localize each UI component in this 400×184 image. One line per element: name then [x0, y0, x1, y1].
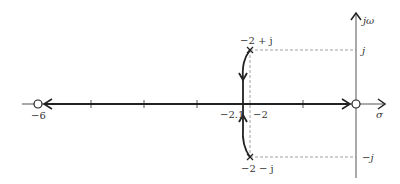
- imag-tick-minus-j: −j: [362, 152, 373, 163]
- zero-minus-6: [34, 100, 42, 108]
- imag-axis-label: jω: [361, 15, 374, 26]
- pole-upper-label: −2 + j: [240, 35, 273, 46]
- real-axis-label: σ: [376, 109, 384, 120]
- pole-lower-label: −2 − j: [241, 163, 274, 174]
- breakin-label: −2.1: [220, 109, 244, 120]
- imag-tick-j: j: [360, 45, 365, 56]
- root-locus-diagram: jω j −j σ −2 + j −2 − j −6 −2.1 −2: [0, 0, 400, 184]
- pole-real-label: −2: [253, 109, 268, 120]
- zero-minus-6-label: −6: [31, 110, 46, 121]
- zero-origin: [352, 100, 360, 108]
- imaginary-axis: [351, 13, 361, 178]
